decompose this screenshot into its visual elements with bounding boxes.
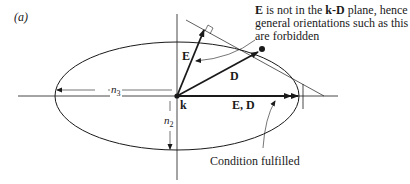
E-vector-label: E	[182, 50, 190, 63]
D-vector-label: D	[230, 70, 239, 83]
n3-label: n3	[110, 83, 122, 100]
D-tip-dot	[259, 46, 265, 52]
forbidden-line-3: are forbidden	[255, 30, 408, 43]
panel-label: (a)	[14, 11, 28, 24]
n2-subscript: 2	[170, 120, 174, 129]
origin-dot	[174, 93, 179, 98]
origin-k-label: k	[180, 99, 187, 112]
ED-vector-label: E, D	[232, 99, 255, 112]
fulfilled-leader	[263, 101, 275, 148]
ED-second-arrowhead	[284, 93, 292, 99]
n3-subscript: 3	[117, 89, 121, 98]
E-vector	[177, 30, 204, 96]
forbidden-annotation: E is not in the k-D plane, hence general…	[255, 4, 408, 43]
fulfilled-annotation: Condition fulfilled	[210, 155, 300, 168]
n2-label: n2	[164, 114, 174, 131]
